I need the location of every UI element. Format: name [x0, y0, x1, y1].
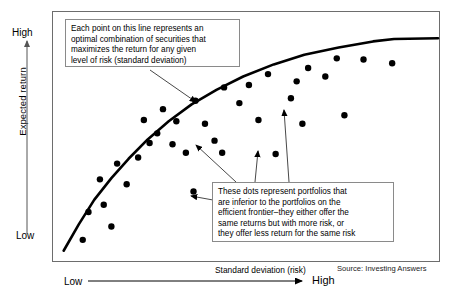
scatter-point — [299, 120, 305, 126]
scatter-point — [389, 60, 395, 66]
scatter-point — [101, 202, 107, 208]
callout-efficient-frontier: Each point on this line represents an op… — [65, 19, 240, 67]
efficient-frontier-figure: High Low Expected return Low High Standa… — [0, 0, 455, 298]
scatter-point — [265, 71, 271, 77]
scatter-point — [211, 137, 217, 143]
frontier-leader — [150, 70, 196, 102]
inferior-leader-left — [191, 196, 213, 200]
scatter-point — [236, 100, 242, 106]
inferior-leader-far — [196, 145, 236, 182]
callout-inferior-line-5: they offer less return for the same risk — [218, 229, 388, 240]
callout-frontier-line-1: Each point on this line represents an — [71, 24, 234, 35]
scatter-point — [272, 151, 278, 157]
callout-inferior-line-4: same returns but with more risk, or — [218, 219, 388, 230]
scatter-point — [108, 223, 114, 229]
scatter-point — [160, 106, 166, 112]
callout-inferior-line-2: are inferior to the portfolios on the — [218, 198, 388, 209]
scatter-point — [334, 55, 340, 61]
scatter-point — [80, 237, 86, 243]
callout-inferior-line-3: efficient frontier–they either offer the — [218, 208, 388, 219]
inferior-leader-right — [284, 110, 289, 182]
callout-frontier-line-3: maximizes the return for any given — [71, 45, 234, 56]
callout-frontier-line-4: level of risk (standard deviation) — [71, 56, 234, 67]
inferior-leader-mid — [255, 151, 258, 182]
scatter-point — [183, 150, 189, 156]
scatter-point — [288, 95, 294, 101]
scatter-point — [341, 112, 347, 118]
scatter-point — [305, 65, 311, 71]
callout-inferior-line-1: These dots represent portfolios that — [218, 187, 388, 198]
scatter-point — [360, 56, 366, 62]
scatter-point — [114, 160, 120, 166]
scatter-point — [97, 176, 103, 182]
scatter-point — [255, 117, 261, 123]
scatter-point — [141, 117, 147, 123]
scatter-point — [202, 120, 208, 126]
scatter-point — [169, 141, 175, 147]
scatter-point — [246, 82, 252, 88]
scatter-point — [173, 118, 179, 124]
scatter-point — [219, 150, 225, 156]
scatter-point — [123, 181, 129, 187]
scatter-point — [190, 188, 196, 194]
scatter-point — [322, 73, 328, 79]
callout-inferior-portfolios: These dots represent portfolios that are… — [212, 182, 394, 242]
scatter-point — [293, 78, 299, 84]
scatter-point — [135, 154, 141, 160]
callout-frontier-line-2: optimal combination of securities that — [71, 35, 234, 46]
